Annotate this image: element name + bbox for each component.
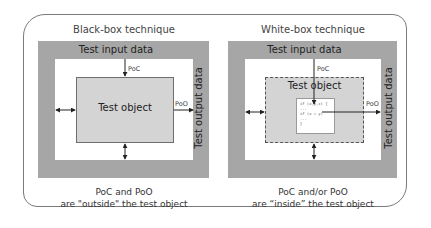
arrows-layer (0, 0, 431, 228)
